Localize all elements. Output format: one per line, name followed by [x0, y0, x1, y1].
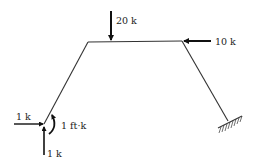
moment-1ftk: 1 ft·k — [49, 115, 86, 134]
curved-arrow-icon — [49, 115, 54, 134]
load-20k-label: 20 k — [116, 15, 137, 26]
load-1k-horizontal-label: 1 k — [16, 111, 31, 122]
frame-diagram: 20 k 10 k 1 k 1 k 1 ft·k — [0, 0, 260, 164]
left-leg-member — [44, 42, 88, 124]
load-10k-label: 10 k — [215, 36, 236, 47]
load-10k: 10 k — [184, 36, 236, 47]
load-1k-horizontal: 1 k — [14, 111, 43, 124]
top-beam-member — [88, 41, 182, 42]
moment-1ftk-label: 1 ft·k — [61, 120, 86, 131]
load-1k-vertical: 1 k — [44, 127, 62, 159]
load-20k: 20 k — [111, 11, 137, 40]
frame-members — [44, 41, 228, 124]
load-1k-vertical-label: 1 k — [47, 148, 62, 159]
fixed-support-icon — [218, 116, 242, 133]
right-leg-member — [182, 41, 228, 121]
